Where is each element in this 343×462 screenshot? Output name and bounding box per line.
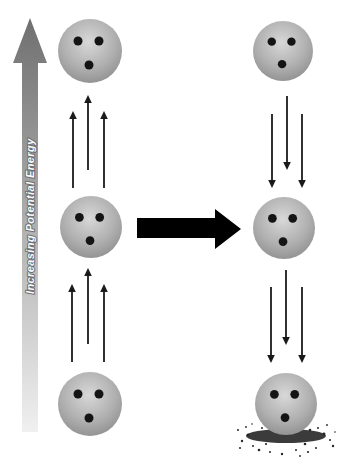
dust-speckle — [241, 440, 243, 442]
dust-speckle — [269, 451, 271, 453]
dust-speckle — [237, 429, 239, 431]
arrow-up-icon — [84, 268, 92, 276]
bowling-ball — [253, 197, 315, 259]
finger-hole-icon — [74, 37, 83, 46]
dust-speckle — [261, 427, 263, 429]
dust-speckle — [239, 447, 241, 449]
dust-speckle — [258, 449, 261, 452]
arrow-up-icon — [69, 111, 77, 119]
diagram-canvas: Increasing Potential Energy — [0, 0, 343, 462]
final-state-column — [237, 21, 336, 457]
finger-hole-icon — [278, 60, 286, 68]
arrow-down-icon — [268, 180, 276, 188]
finger-hole-icon — [86, 236, 95, 245]
arrow-up-icon — [100, 284, 108, 292]
finger-hole-icon — [268, 37, 276, 45]
dust-speckle — [307, 451, 309, 453]
finger-hole-icon — [279, 237, 288, 246]
arrow-down-icon — [298, 355, 306, 363]
dust-speckle — [329, 439, 331, 441]
finger-hole-icon — [281, 413, 290, 422]
bowling-ball — [58, 19, 122, 83]
dust-speckle — [247, 434, 250, 437]
dust-speckle — [326, 424, 328, 426]
arrow-down-icon — [267, 355, 275, 363]
dust-speckle — [281, 453, 283, 455]
arrow-down-icon — [282, 337, 290, 345]
finger-hole-icon — [288, 214, 297, 223]
arrow-up-icon — [100, 111, 108, 119]
dust-speckle — [315, 447, 317, 449]
dust-speckle — [245, 426, 247, 428]
bowling-ball — [255, 373, 317, 435]
dust-speckle — [332, 445, 334, 447]
finger-hole-icon — [95, 213, 104, 222]
finger-hole-icon — [268, 214, 277, 223]
finger-hole-icon — [95, 390, 104, 399]
energy-axis-label: Increasing Potential Energy — [24, 138, 36, 294]
dust-speckle — [317, 427, 319, 429]
finger-hole-icon — [85, 414, 94, 423]
bowling-ball — [60, 196, 122, 258]
finger-hole-icon — [270, 390, 279, 399]
finger-hole-icon — [287, 37, 295, 45]
finger-hole-icon — [74, 390, 83, 399]
finger-hole-icon — [75, 213, 84, 222]
dust-speckle — [265, 443, 267, 445]
dust-speckle — [323, 433, 326, 436]
finger-hole-icon — [85, 61, 94, 70]
bowling-ball — [253, 21, 313, 81]
dust-speckle — [251, 423, 253, 425]
energy-axis: Increasing Potential Energy — [13, 18, 47, 432]
dust-speckle — [304, 443, 307, 446]
arrow-up-icon — [68, 284, 76, 292]
arrow-down-icon — [298, 180, 306, 188]
process-arrow — [137, 209, 241, 249]
finger-hole-icon — [290, 390, 299, 399]
dust-speckle — [252, 445, 254, 447]
finger-hole-icon — [95, 37, 104, 46]
dust-speckle — [299, 455, 301, 457]
dust-speckle — [334, 431, 336, 433]
arrow-up-icon — [84, 95, 92, 103]
potential-energy-diagram: Increasing Potential Energy — [0, 0, 343, 462]
initial-state-column — [58, 19, 122, 436]
arrow-down-icon — [283, 162, 291, 170]
bowling-ball — [58, 372, 122, 436]
dust-speckle — [309, 429, 312, 432]
dust-speckle — [295, 449, 297, 451]
